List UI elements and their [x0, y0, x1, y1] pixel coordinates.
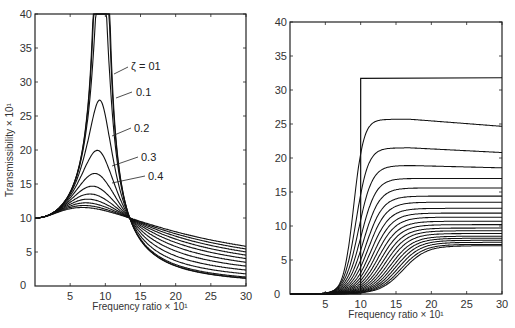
y-tick-label: 25 [20, 110, 32, 122]
svg-text:0: 0 [274, 288, 280, 300]
x-tick-label: 5 [67, 290, 73, 302]
x-tick-label: 30 [240, 290, 252, 302]
x-tick-label: 30 [496, 298, 508, 310]
y-tick-label: 35 [275, 50, 287, 62]
x-tick-label: 25 [205, 290, 217, 302]
x-tick-label: 5 [322, 298, 328, 310]
annotation-0-4: 0.4 [148, 170, 163, 182]
y-tick-label: 40 [20, 8, 32, 20]
left-chart: 510152025300101520253035405 Frequency ra… [4, 8, 252, 312]
y-tick-label: 10 [275, 220, 287, 232]
y-tick-label: 5 [281, 254, 287, 266]
figure: 510152025300101520253035405 Frequency ra… [0, 0, 515, 328]
y-tick-label: 15 [20, 178, 32, 190]
y-tick-label: 40 [275, 16, 287, 28]
y-tick-label: 35 [20, 42, 32, 54]
y-tick-label: 10 [20, 212, 32, 224]
left-plot-frame [35, 14, 246, 286]
right-curves [290, 78, 502, 294]
annotation-0-1: 0.1 [136, 86, 151, 98]
left-curves [35, 14, 246, 278]
left-x-label: Frequency ratio × 10¹ [92, 301, 188, 312]
y-tick-label: 20 [20, 144, 32, 156]
y-tick-label: 25 [275, 118, 287, 130]
y-tick-label: 20 [275, 152, 287, 164]
x-tick-label: 25 [461, 298, 473, 310]
annotation-0-2: 0.2 [134, 122, 149, 134]
y-tick-label: 30 [275, 84, 287, 96]
annotation-zeta-01: ζ = 01 [131, 60, 161, 72]
svg-text:5: 5 [26, 246, 32, 258]
right-x-label: Frequency ratio × 10¹ [348, 309, 444, 320]
y-tick-label: 15 [275, 186, 287, 198]
right-ticks: 510152025305101520253035400 [274, 16, 508, 310]
annotation-0-3: 0.3 [141, 151, 156, 163]
right-chart: 510152025305101520253035400 Frequency ra… [274, 16, 508, 320]
left-y-label: Transmissibility × 10¹ [4, 102, 15, 196]
y-tick-label: 30 [20, 76, 32, 88]
origin-label: 0 [20, 279, 26, 291]
